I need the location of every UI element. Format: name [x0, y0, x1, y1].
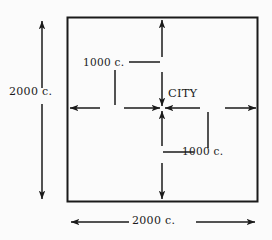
- city-label: CITY: [168, 88, 197, 100]
- dimension-label-left-side: 2000 c.: [9, 86, 52, 97]
- dimension-label-radius-bottom: 1000 c.: [182, 146, 223, 157]
- dimension-label-radius-top: 1000 c.: [83, 57, 124, 68]
- diagram-vector-layer: [0, 0, 272, 240]
- dimension-label-bottom-side: 2000 c.: [132, 215, 175, 226]
- diagram-canvas: 2000 c. 2000 c. 1000 c. 1000 c. CITY: [0, 0, 272, 240]
